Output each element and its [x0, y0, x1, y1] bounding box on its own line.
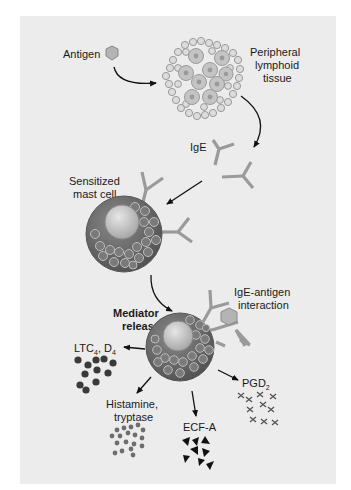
- activated-mast-cell-icon: [146, 313, 214, 381]
- arrow-antigen-to-tissue: [114, 67, 156, 83]
- arrow-ige-to-mast-cell: [167, 181, 202, 204]
- arrow-mast-cell-to-mediator-release: [151, 275, 172, 311]
- arrow-to-histamine: [137, 377, 151, 393]
- bound-antigen-hexagon-icon: [221, 308, 237, 325]
- antigen-label: Antigen: [63, 48, 100, 60]
- ltc4-d4-label: LTC4, D4: [74, 342, 116, 356]
- arrow-to-ecf-a: [192, 391, 196, 416]
- sensitized-mast-cell-icon: [86, 172, 192, 272]
- leukotriene-dots-icon: [74, 355, 116, 393]
- arrow-to-ltc4-d4: [124, 347, 145, 349]
- pgd2-crosses-icon: [238, 392, 278, 425]
- interaction-label-1: IgE-antigen: [234, 286, 290, 298]
- arrow-to-pgd2: [218, 370, 238, 380]
- ige-label: IgE: [190, 141, 207, 153]
- lymphoid-label-2: lymphoid: [255, 59, 299, 71]
- ecf-a-triangles-icon: [182, 436, 214, 470]
- ecf-a-label: ECF-A: [183, 421, 217, 433]
- mast-cell-label-1: Sensitized: [69, 175, 120, 187]
- lymphoid-label-3: tissue: [263, 72, 292, 84]
- pgd2-label: PGD2: [242, 377, 270, 391]
- histamine-label-2: tryptase: [114, 411, 153, 423]
- lymphoid-label-1: Peripheral: [250, 46, 300, 58]
- antigen-hexagon-icon: [106, 46, 118, 60]
- interaction-label-2: interaction: [238, 299, 289, 311]
- mediator-release-label-1: Mediator: [113, 307, 160, 319]
- ige-antibody-icon: [222, 162, 253, 188]
- mast-cell-diagram: Antigen Peripheral lymphoid tissue IgE S…: [0, 0, 351, 490]
- arrow-tissue-to-ige: [241, 96, 261, 147]
- histamine-tryptase-dots-icon: [110, 423, 146, 458]
- lymphocyte-cells-icon: [179, 49, 234, 105]
- histamine-label-1: Histamine,: [106, 398, 158, 410]
- ige-antibody-icon: [213, 140, 234, 165]
